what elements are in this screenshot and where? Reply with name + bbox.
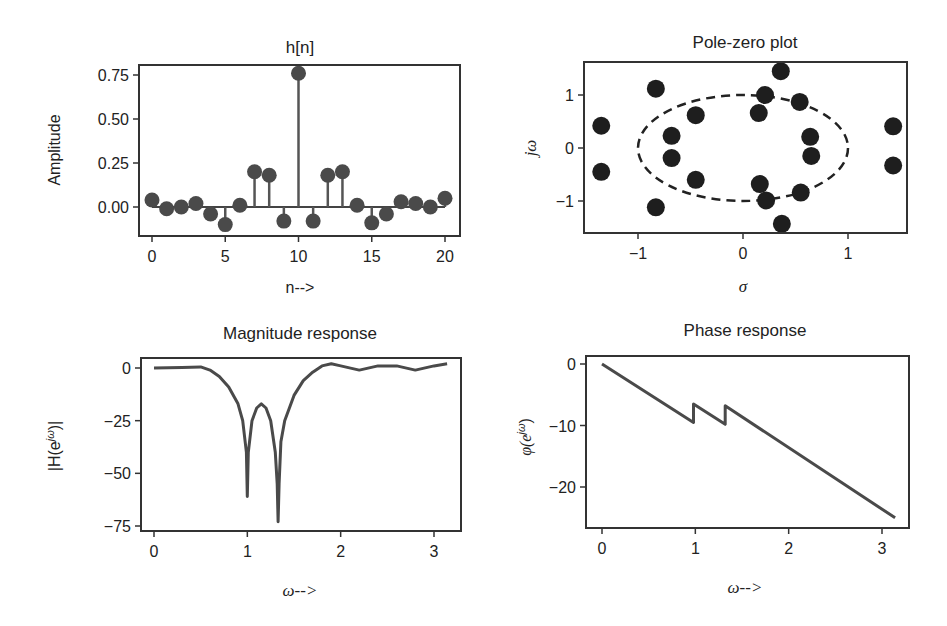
pole-zero-marker [663,149,681,167]
impulse-response-plot: h[n] 051015200.750.500.250.00 n--> Ampli… [46,38,460,296]
y-tick-label: −25 [104,413,131,430]
y-tick-label: −10 [549,418,576,435]
stem-marker [232,198,247,213]
y-tick-label: 0.25 [98,155,129,172]
stem-marker [394,194,409,209]
x-tick-label: 0 [150,543,159,560]
plot-title: Pole-zero plot [693,33,798,52]
y-axis-label: jω [521,140,540,159]
pole-zero-marker [756,86,774,104]
pole-zero-marker [884,117,902,135]
stem-marker [145,192,160,207]
x-tick-label: 0 [739,245,748,262]
x-tick-label: 0 [598,540,607,557]
pole-zero-marker [791,93,809,111]
pole-zero-marker [663,127,681,145]
magnitude-curve [154,364,447,522]
x-tick-label: 3 [430,543,439,560]
stem-marker [350,198,365,213]
stem-marker [276,214,291,229]
magnitude-line [154,364,447,522]
y-tick-label: 0 [565,140,574,157]
x-tick-label: 15 [363,248,381,265]
y-tick-label: 0 [122,360,131,377]
pole-zero-marker [751,175,769,193]
x-tick-label: 1 [691,540,700,557]
stem-marker [291,66,306,81]
stem-marker [408,196,423,211]
axis-ticks: 01230−10−20 [549,356,887,557]
x-tick-label: 5 [221,248,230,265]
pole-zero-marker [687,106,705,124]
x-tick-label: 1 [844,245,853,262]
stem-marker [423,200,438,215]
x-tick-label: 2 [784,540,793,557]
pole-zero-marker [647,80,665,98]
stem-marker [218,217,233,232]
y-axis-label: φ(ejω) [515,418,535,456]
stem-marker [203,207,218,222]
pole-zero-points [592,62,902,233]
axes-frame [584,62,907,233]
stem-marker [247,164,262,179]
stem-marker [320,168,335,183]
phase-line [602,364,895,518]
plot-title: Phase response [684,321,807,340]
x-tick-label: 2 [336,543,345,560]
phase-curve [602,364,895,518]
x-tick-label: 20 [436,248,454,265]
y-tick-label: 0.50 [98,111,129,128]
x-tick-label: 10 [290,248,308,265]
pole-zero-marker [647,198,665,216]
y-tick-label: 0 [567,356,576,373]
y-tick-label: −50 [104,465,131,482]
pole-zero-marker [792,184,810,202]
stem-marker [379,207,394,222]
stem-marker [335,164,350,179]
y-tick-label: 0.75 [98,67,129,84]
stem-marker [364,215,379,230]
x-tick-label: 1 [243,543,252,560]
pole-zero-marker [757,191,775,209]
y-tick-label: 1 [565,87,574,104]
magnitude-response-plot: Magnitude response 01230−25−50−75 ω--> |… [44,324,461,600]
pole-zero-marker [802,147,820,165]
stem-marker [262,168,277,183]
pole-zero-marker [592,163,610,181]
x-axis-label: n--> [286,279,315,296]
x-tick-label: 0 [148,248,157,265]
pole-zero-marker [772,62,790,80]
pole-zero-marker [801,128,819,146]
figure: h[n] 051015200.750.500.250.00 n--> Ampli… [0,0,947,626]
pole-zero-marker [884,156,902,174]
pole-zero-plot: Pole-zero plot −10110−1 σ jω [521,33,907,296]
stem-marker [159,201,174,216]
stem-marker [188,196,203,211]
unit-circle [638,95,848,201]
stem-marker [438,191,453,206]
stem-series [145,66,453,232]
x-axis-label: ω--> [728,578,763,597]
y-axis-label: |H(ejω)| [44,421,63,471]
y-tick-label: −75 [104,518,131,535]
plot-title: h[n] [286,38,314,57]
x-axis-label: σ [739,277,748,296]
y-tick-label: 0.00 [98,199,129,216]
y-tick-label: −1 [556,193,574,210]
y-axis-label: Amplitude [46,114,63,185]
x-axis-label: ω--> [283,581,318,600]
phase-response-plot: Phase response 01230−10−20 ω--> φ(ejω) [515,321,909,597]
pole-zero-marker [750,104,768,122]
pole-zero-marker [687,171,705,189]
plot-title: Magnitude response [223,324,377,343]
axes-frame [586,356,909,528]
pole-zero-marker [773,215,791,233]
stem-marker [306,214,321,229]
y-tick-label: −20 [549,479,576,496]
x-tick-label: 3 [878,540,887,557]
pole-zero-marker [592,117,610,135]
x-tick-label: −1 [629,245,647,262]
stem-marker [174,200,189,215]
